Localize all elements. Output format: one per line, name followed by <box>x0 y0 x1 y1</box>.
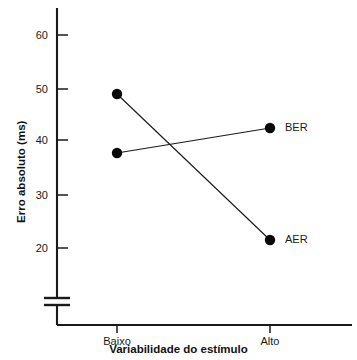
series-line-ber <box>117 128 270 153</box>
data-point-ber-baixo <box>112 148 122 158</box>
y-tick-label-60: 60 <box>10 30 48 41</box>
series-label-ber: BER <box>285 122 308 133</box>
line-chart-figure: 60 50 40 30 20 Baixo Alto BER AER Erro a… <box>0 0 357 360</box>
data-point-ber-alto <box>265 123 275 133</box>
data-point-aer-alto <box>265 235 275 245</box>
x-axis-title: Variabilidade do estímulo <box>0 344 357 356</box>
y-tick-label-50: 50 <box>10 84 48 95</box>
series-line-aer <box>117 94 270 240</box>
y-axis-title: Erro absoluto (ms) <box>16 97 28 247</box>
data-point-aer-baixo <box>112 89 122 99</box>
series-label-aer: AER <box>285 234 308 245</box>
chart-plot-area <box>0 0 357 360</box>
